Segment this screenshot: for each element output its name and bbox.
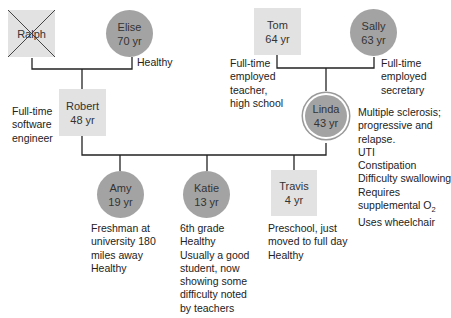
person-name: Robert: [66, 99, 99, 113]
note-line: Healthy: [268, 249, 347, 262]
person-name: Tom: [267, 18, 288, 32]
person-name: Elise: [118, 20, 142, 34]
person-ralph: Ralph: [8, 10, 55, 57]
note-amy: Freshman at university 180 miles away He…: [91, 222, 156, 275]
person-tom: Tom 64 yr: [254, 8, 301, 55]
note-line: difficulty noted: [180, 288, 249, 301]
note-elise: Healthy: [137, 56, 173, 69]
person-travis: Travis 4 yr: [271, 170, 317, 216]
note-line: relapse.: [358, 133, 451, 146]
note-tom: Full-time employed teacher, high school: [230, 57, 283, 110]
subscript: 2: [432, 205, 436, 214]
person-elise: Elise 70 yr: [106, 10, 153, 57]
person-age: 19 yr: [108, 195, 132, 209]
note-line: student, now: [180, 262, 249, 275]
person-name: Amy: [110, 181, 132, 195]
person-sally: Sally 63 yr: [350, 9, 397, 56]
note-line: Usually a good: [180, 249, 249, 262]
note-robert: Full-time software engineer: [12, 105, 53, 145]
note-line: Freshman at: [91, 222, 156, 235]
person-katie: Katie 13 yr: [183, 171, 230, 218]
person-name: Katie: [194, 181, 219, 195]
person-name: Sally: [362, 19, 386, 33]
person-age: 63 yr: [361, 33, 385, 47]
person-name: Ralph: [17, 27, 46, 41]
note-line: software: [12, 118, 53, 131]
person-name: Travis: [279, 179, 309, 193]
note-line: Full-time: [230, 57, 283, 70]
person-age: 70 yr: [117, 34, 141, 48]
note-line: Preschool, just: [268, 222, 347, 235]
person-amy: Amy 19 yr: [97, 171, 144, 218]
note-line: supplemental O2: [358, 199, 451, 216]
person-age: 43 yr: [314, 116, 338, 130]
note-sally: Full-time employed secretary: [381, 57, 427, 97]
note-line: employed: [381, 70, 427, 83]
note-line: employed: [230, 70, 283, 83]
person-robert: Robert 48 yr: [59, 89, 106, 136]
note-line: Healthy: [91, 262, 156, 275]
person-linda: Linda 43 yr: [305, 95, 347, 137]
note-line: 6th grade: [180, 222, 249, 235]
note-line: engineer: [12, 132, 53, 145]
note-line: progressive and: [358, 119, 451, 132]
note-text: supplemental O: [358, 199, 432, 211]
note-line: showing some: [180, 275, 249, 288]
person-age: 64 yr: [265, 32, 289, 46]
note-travis: Preschool, just moved to full day Health…: [268, 222, 347, 262]
note-line: moved to full day: [268, 235, 347, 248]
note-line: teacher,: [230, 84, 283, 97]
note-line: high school: [230, 97, 283, 110]
note-line: Full-time: [381, 57, 427, 70]
note-line: Constipation: [358, 159, 451, 172]
note-katie: 6th grade Healthy Usually a good student…: [180, 222, 249, 315]
note-line: university 180: [91, 235, 156, 248]
note-line: Healthy: [180, 235, 249, 248]
note-line: UTI: [358, 146, 451, 159]
note-line: by teachers: [180, 302, 249, 315]
note-line: Difficulty swallowing: [358, 172, 451, 185]
person-name: Linda: [313, 102, 340, 116]
person-age: 48 yr: [70, 113, 94, 127]
note-line: Uses wheelchair: [358, 216, 451, 229]
note-line: Full-time: [12, 105, 53, 118]
note-line: secretary: [381, 84, 427, 97]
person-age: 13 yr: [194, 195, 218, 209]
note-linda: Multiple sclerosis; progressive and rela…: [358, 106, 451, 230]
note-line: Requires: [358, 186, 451, 199]
note-line: Multiple sclerosis;: [358, 106, 451, 119]
note-line: miles away: [91, 249, 156, 262]
person-age: 4 yr: [285, 193, 303, 207]
